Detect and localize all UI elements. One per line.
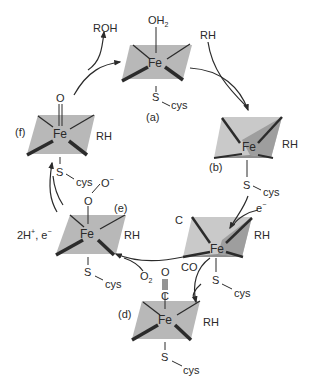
cys-label-e: cys bbox=[105, 278, 122, 290]
rh-label-f: RH bbox=[96, 130, 112, 142]
o-minus-label-e: O− bbox=[101, 174, 114, 189]
cys-label-b: cys bbox=[263, 186, 280, 198]
o-label-d: O bbox=[161, 266, 170, 278]
o2-input-label: O2 bbox=[140, 270, 152, 287]
cys-label-f: cys bbox=[76, 176, 93, 188]
cys-label-c: cys bbox=[234, 287, 251, 299]
state-label-c: C bbox=[175, 214, 183, 226]
fe-label-d: Fe bbox=[158, 314, 172, 326]
rh-label-d: RH bbox=[203, 316, 219, 328]
state-label-d: (d) bbox=[118, 308, 131, 320]
o-label-f: O bbox=[56, 92, 65, 104]
oh2-ligand-label: OH2 bbox=[148, 14, 168, 31]
fe-label-f: Fe bbox=[53, 128, 67, 140]
state-label-f: (f) bbox=[15, 126, 25, 138]
state-label-b: (b) bbox=[209, 161, 222, 173]
s-label-b: S bbox=[243, 179, 250, 191]
cys-label-d: cys bbox=[183, 364, 200, 376]
s-label-f: S bbox=[56, 166, 63, 178]
e-minus-label-b: e− bbox=[256, 199, 266, 214]
s-label-c: S bbox=[212, 274, 219, 286]
rh-label-e: RH bbox=[124, 229, 140, 241]
co-input-label: CO bbox=[181, 261, 198, 273]
protons-electron-input-label: 2H+, e− bbox=[17, 226, 51, 241]
rh-label-c: RH bbox=[254, 229, 270, 241]
roh-output-label: ROH bbox=[93, 22, 117, 34]
c-label-d: C bbox=[161, 290, 169, 302]
o-label-e: O bbox=[84, 195, 93, 207]
s-label-d: S bbox=[161, 351, 168, 363]
state-label-a: (a) bbox=[146, 111, 159, 123]
fe-label-a: Fe bbox=[148, 57, 162, 69]
fe-label-c: Fe bbox=[210, 243, 224, 255]
s-label-a: S bbox=[152, 91, 159, 103]
fe-label-b: Fe bbox=[242, 141, 256, 153]
cys-label-a: cys bbox=[171, 99, 188, 111]
rh-input-label: RH bbox=[200, 29, 216, 41]
s-label-e: S bbox=[84, 266, 91, 278]
state-label-e: (e) bbox=[114, 202, 127, 214]
fe-label-e: Fe bbox=[80, 228, 94, 240]
rh-label-b: RH bbox=[282, 138, 298, 150]
